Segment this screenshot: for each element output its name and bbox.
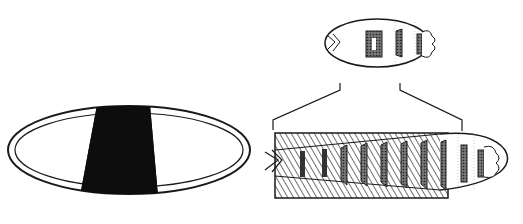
denticle-band — [461, 145, 467, 182]
zoom-connector-lines — [273, 83, 462, 131]
posterior-spiracles-icon — [422, 31, 435, 58]
denticle-band — [441, 140, 446, 190]
denticle-band — [300, 151, 305, 177]
denticle-band — [361, 143, 367, 186]
embryo-diagram — [8, 105, 250, 196]
small-larva-diagram — [325, 19, 435, 67]
figure-canvas — [0, 0, 523, 224]
denticle-band — [396, 29, 402, 57]
denticle-band — [417, 34, 422, 54]
denticle-band — [478, 150, 484, 177]
denticle-band — [322, 149, 327, 177]
enlarged-larva-diagram — [265, 133, 508, 198]
denticle-band — [401, 141, 407, 188]
denticle-band — [421, 140, 427, 189]
diagram-svg — [0, 0, 523, 224]
denticle-band — [341, 145, 347, 185]
denticle-band — [381, 142, 387, 187]
